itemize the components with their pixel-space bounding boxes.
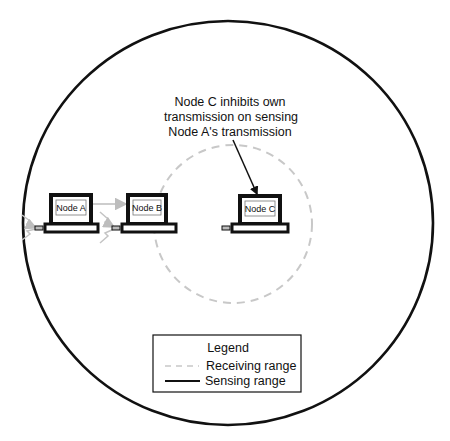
legend-title: Legend xyxy=(207,341,249,355)
node-c[interactable]: Node C xyxy=(222,196,288,232)
diagram-canvas: Node C inhibits own transmission on sens… xyxy=(0,0,450,441)
node-b-label: Node B xyxy=(132,203,162,213)
node-a-plug xyxy=(35,226,43,230)
node-c-plug xyxy=(222,226,230,230)
legend: Legend Receiving range Sensing range xyxy=(153,335,301,392)
node-a[interactable]: Node A xyxy=(35,195,98,232)
legend-label-receiving: Receiving range xyxy=(206,359,296,373)
annotation-line-1: Node C inhibits own xyxy=(174,95,285,109)
node-b-plug xyxy=(112,226,120,230)
annotation-line-2: transmission on sensing xyxy=(164,110,298,124)
node-a-label: Node A xyxy=(56,203,86,213)
node-b-base xyxy=(122,224,176,232)
node-a-base xyxy=(45,224,98,232)
node-c-base xyxy=(232,224,288,232)
annotation-line-3: Node A's transmission xyxy=(168,125,291,139)
node-c-label: Node C xyxy=(245,204,276,214)
node-b[interactable]: Node B xyxy=(112,195,176,232)
legend-label-sensing: Sensing range xyxy=(205,374,286,388)
